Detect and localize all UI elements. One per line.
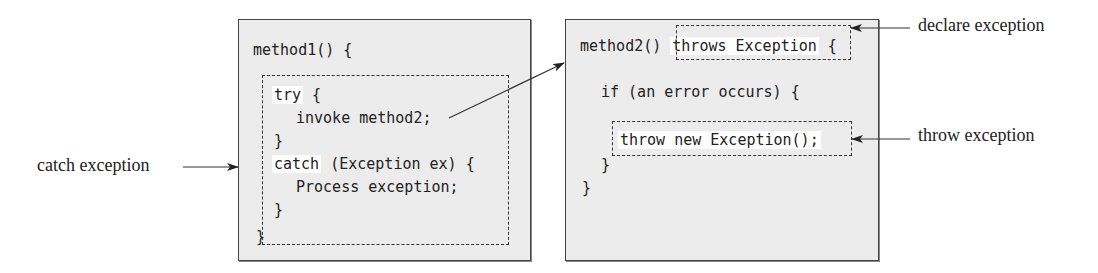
- arrows-layer: [0, 0, 1098, 273]
- invoke-arrow: [449, 63, 564, 118]
- exception-diagram: method1() { try { invoke method2; } catc…: [0, 0, 1098, 273]
